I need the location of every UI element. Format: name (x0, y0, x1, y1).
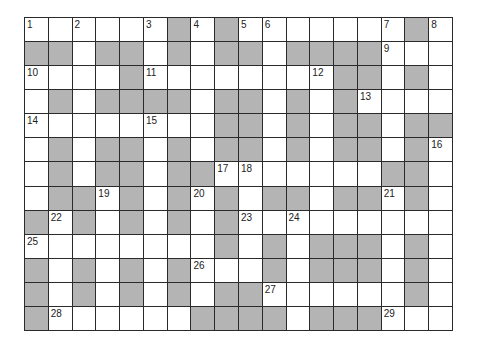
grid-cell[interactable] (144, 42, 167, 65)
grid-cell[interactable] (73, 162, 96, 185)
grid-cell[interactable] (73, 307, 96, 330)
grid-cell[interactable]: 13 (358, 90, 381, 113)
grid-cell[interactable]: 27 (263, 283, 286, 306)
grid-cell[interactable]: 7 (382, 18, 405, 41)
grid-cell[interactable]: 4 (191, 18, 214, 41)
grid-cell[interactable] (263, 211, 286, 234)
grid-cell[interactable] (429, 307, 452, 330)
grid-cell[interactable] (287, 259, 310, 282)
grid-cell[interactable] (382, 211, 405, 234)
grid-cell[interactable] (287, 307, 310, 330)
grid-cell[interactable] (429, 283, 452, 306)
grid-cell[interactable] (215, 66, 238, 89)
grid-cell[interactable]: 29 (382, 307, 405, 330)
grid-cell[interactable]: 23 (239, 211, 262, 234)
grid-cell[interactable] (334, 283, 357, 306)
grid-cell[interactable] (263, 114, 286, 137)
grid-cell[interactable] (215, 259, 238, 282)
grid-cell[interactable]: 28 (49, 307, 72, 330)
grid-cell[interactable] (310, 187, 333, 210)
grid-cell[interactable] (96, 211, 119, 234)
grid-cell[interactable] (239, 235, 262, 258)
grid-cell[interactable] (358, 162, 381, 185)
grid-cell[interactable] (25, 90, 48, 113)
grid-cell[interactable] (429, 187, 452, 210)
grid-cell[interactable]: 24 (287, 211, 310, 234)
grid-cell[interactable] (49, 66, 72, 89)
grid-cell[interactable] (429, 66, 452, 89)
grid-cell[interactable] (358, 18, 381, 41)
grid-cell[interactable] (382, 283, 405, 306)
grid-cell[interactable] (310, 114, 333, 137)
grid-cell[interactable] (144, 307, 167, 330)
grid-cell[interactable] (382, 235, 405, 258)
grid-cell[interactable] (73, 138, 96, 161)
grid-cell[interactable] (96, 307, 119, 330)
grid-cell[interactable] (429, 235, 452, 258)
grid-cell[interactable]: 6 (263, 18, 286, 41)
grid-cell[interactable]: 2 (73, 18, 96, 41)
grid-cell[interactable] (120, 307, 143, 330)
grid-cell[interactable] (358, 283, 381, 306)
grid-cell[interactable] (405, 211, 428, 234)
grid-cell[interactable] (263, 138, 286, 161)
grid-cell[interactable]: 17 (215, 162, 238, 185)
grid-cell[interactable] (168, 307, 191, 330)
grid-cell[interactable] (429, 90, 452, 113)
grid-cell[interactable] (429, 42, 452, 65)
grid-cell[interactable] (287, 283, 310, 306)
grid-cell[interactable] (334, 18, 357, 41)
grid-cell[interactable] (25, 187, 48, 210)
grid-cell[interactable] (310, 138, 333, 161)
grid-cell[interactable] (96, 259, 119, 282)
grid-cell[interactable] (168, 114, 191, 137)
grid-cell[interactable] (191, 66, 214, 89)
grid-cell[interactable] (382, 259, 405, 282)
grid-cell[interactable] (382, 66, 405, 89)
grid-cell[interactable] (96, 18, 119, 41)
grid-cell[interactable] (73, 114, 96, 137)
grid-cell[interactable]: 16 (429, 138, 452, 161)
grid-cell[interactable] (25, 162, 48, 185)
grid-cell[interactable] (429, 162, 452, 185)
grid-cell[interactable] (96, 114, 119, 137)
grid-cell[interactable]: 26 (191, 259, 214, 282)
grid-cell[interactable] (49, 114, 72, 137)
grid-cell[interactable] (310, 18, 333, 41)
grid-cell[interactable] (168, 66, 191, 89)
grid-cell[interactable] (144, 211, 167, 234)
grid-cell[interactable] (49, 18, 72, 41)
grid-cell[interactable] (144, 235, 167, 258)
grid-cell[interactable] (263, 66, 286, 89)
grid-cell[interactable] (73, 42, 96, 65)
grid-cell[interactable] (263, 42, 286, 65)
grid-cell[interactable]: 20 (191, 187, 214, 210)
grid-cell[interactable] (334, 162, 357, 185)
grid-cell[interactable] (144, 259, 167, 282)
grid-cell[interactable] (358, 211, 381, 234)
grid-cell[interactable] (120, 114, 143, 137)
grid-cell[interactable]: 14 (25, 114, 48, 137)
grid-cell[interactable] (405, 90, 428, 113)
grid-cell[interactable]: 1 (25, 18, 48, 41)
grid-cell[interactable]: 11 (144, 66, 167, 89)
grid-cell[interactable] (168, 235, 191, 258)
grid-cell[interactable] (73, 235, 96, 258)
grid-cell[interactable] (287, 18, 310, 41)
grid-cell[interactable] (96, 235, 119, 258)
grid-cell[interactable]: 25 (25, 235, 48, 258)
grid-cell[interactable]: 15 (144, 114, 167, 137)
grid-cell[interactable]: 22 (49, 211, 72, 234)
grid-cell[interactable]: 12 (310, 66, 333, 89)
grid-cell[interactable] (263, 90, 286, 113)
grid-cell[interactable] (73, 90, 96, 113)
grid-cell[interactable]: 3 (144, 18, 167, 41)
grid-cell[interactable] (287, 66, 310, 89)
grid-cell[interactable] (120, 18, 143, 41)
grid-cell[interactable] (49, 283, 72, 306)
grid-cell[interactable] (405, 42, 428, 65)
grid-cell[interactable] (96, 283, 119, 306)
grid-cell[interactable] (334, 211, 357, 234)
grid-cell[interactable] (191, 138, 214, 161)
grid-cell[interactable] (144, 138, 167, 161)
